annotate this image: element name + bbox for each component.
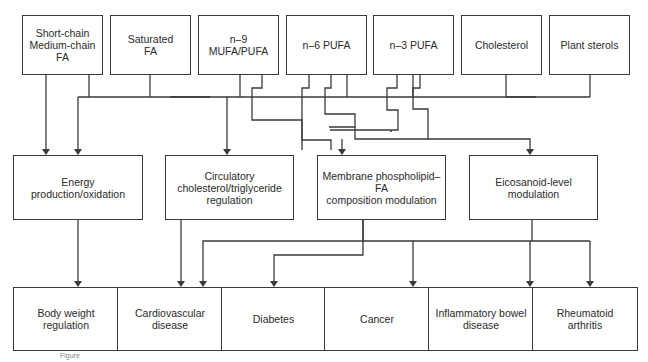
figure-caption: Figure [60, 352, 80, 359]
connector-lines [0, 0, 648, 362]
